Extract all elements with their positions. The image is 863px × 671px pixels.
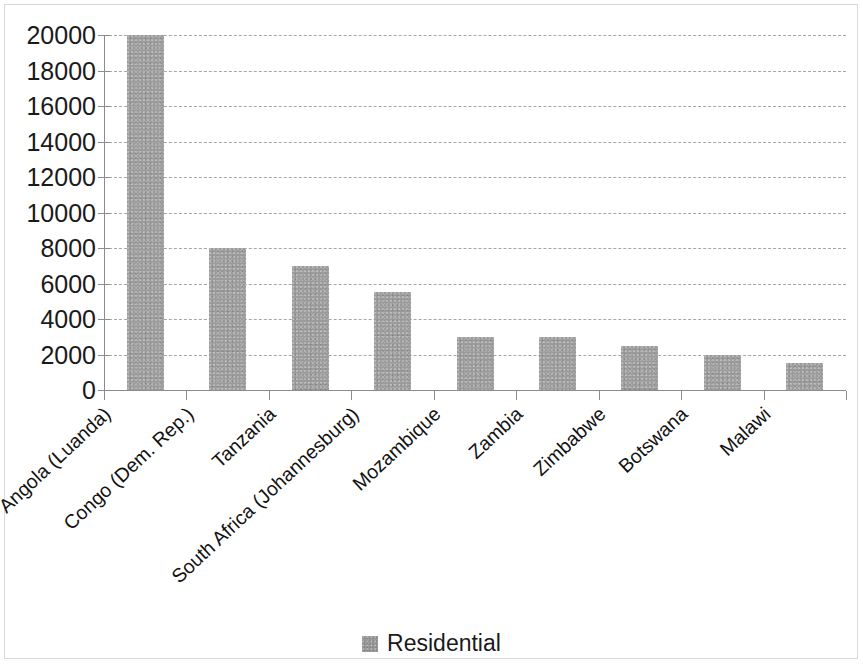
bar[interactable] bbox=[704, 355, 741, 391]
y-tick-mark-8000 bbox=[98, 248, 110, 249]
x-axis-tick-label: Malawi bbox=[716, 404, 774, 460]
bar-chart: 0200040006000800010000120001400016000180… bbox=[0, 0, 863, 671]
y-tick-mark-12000 bbox=[98, 177, 110, 178]
x-tick-mark bbox=[599, 391, 600, 400]
y-axis-tick-label: 14000 bbox=[0, 129, 96, 154]
y-axis-tick-label: 8000 bbox=[0, 236, 96, 261]
x-tick-mark bbox=[104, 391, 105, 400]
y-axis-labels: 0200040006000800010000120001400016000180… bbox=[0, 0, 96, 671]
legend-swatch-residential bbox=[362, 636, 378, 652]
x-tick-mark bbox=[269, 391, 270, 400]
x-tick-mark bbox=[186, 391, 187, 400]
y-axis-tick-label: 2000 bbox=[0, 342, 96, 367]
x-axis-line bbox=[104, 390, 846, 391]
y-tick-mark-4000 bbox=[98, 319, 110, 320]
bar[interactable] bbox=[786, 363, 823, 390]
y-axis-tick-label: 16000 bbox=[0, 94, 96, 119]
bar[interactable] bbox=[209, 248, 246, 390]
y-tick-mark-18000 bbox=[98, 71, 110, 72]
bar[interactable] bbox=[292, 266, 329, 390]
x-tick-mark bbox=[764, 391, 765, 400]
y-axis-tick-label: 4000 bbox=[0, 307, 96, 332]
bar[interactable] bbox=[539, 337, 576, 390]
y-axis-tick-label: 6000 bbox=[0, 271, 96, 296]
y-tick-mark-14000 bbox=[98, 142, 110, 143]
y-tick-mark-20000 bbox=[98, 35, 110, 36]
bar[interactable] bbox=[621, 346, 658, 390]
x-tick-mark bbox=[434, 391, 435, 400]
x-tick-mark bbox=[681, 391, 682, 400]
bars-layer bbox=[104, 35, 846, 390]
x-tick-mark bbox=[516, 391, 517, 400]
chart-legend: Residential bbox=[0, 632, 863, 655]
y-tick-mark-2000 bbox=[98, 355, 110, 356]
legend-label-residential: Residential bbox=[387, 632, 501, 655]
x-axis-tick-label: Zimbabwe bbox=[530, 404, 609, 480]
y-axis-tick-label: 18000 bbox=[0, 58, 96, 83]
y-tick-mark-16000 bbox=[98, 106, 110, 107]
bar[interactable] bbox=[374, 292, 411, 390]
x-axis-tick-label: Botswana bbox=[616, 404, 692, 477]
y-axis-tick-label: 10000 bbox=[0, 200, 96, 225]
y-tick-mark-10000 bbox=[98, 213, 110, 214]
bar[interactable] bbox=[457, 337, 494, 390]
x-axis-tick-label: Tanzania bbox=[209, 404, 279, 471]
x-axis-tick-label: Mozambique bbox=[349, 404, 444, 494]
y-axis-tick-label: 12000 bbox=[0, 165, 96, 190]
y-axis-tick-label: 0 bbox=[0, 378, 96, 403]
x-tick-mark bbox=[846, 391, 847, 400]
y-tick-mark-6000 bbox=[98, 284, 110, 285]
y-axis-tick-label: 20000 bbox=[0, 23, 96, 48]
x-tick-mark bbox=[351, 391, 352, 400]
x-axis-tick-label: Zambia bbox=[466, 404, 527, 463]
bar[interactable] bbox=[127, 35, 164, 390]
